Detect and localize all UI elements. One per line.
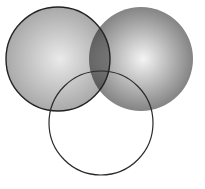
venn-diagram xyxy=(0,0,205,189)
venn-diagram-svg xyxy=(0,0,205,189)
